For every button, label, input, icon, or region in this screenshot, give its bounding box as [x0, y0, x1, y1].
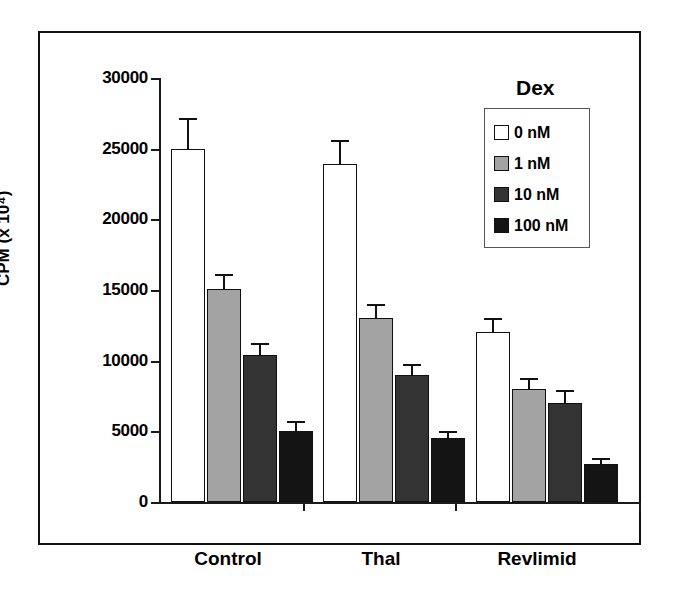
bar-control-100nM [279, 431, 313, 502]
error-cap-revlimid-100nM [592, 458, 610, 460]
y-tick-label-5000: 5000 [111, 421, 148, 441]
y-tick-label-0: 0 [139, 492, 148, 512]
error-cap-control-0nM [179, 118, 197, 120]
x-tick-group-sep-1 [303, 502, 305, 511]
error-bar-revlimid-100nM [600, 460, 602, 464]
x-category-label-revlimid: Revlimid [497, 548, 576, 570]
legend-swatch-100nM [494, 218, 509, 233]
y-tick-label-25000: 25000 [102, 139, 148, 159]
x-category-label-control: Control [194, 548, 262, 570]
bar-thal-100nM [431, 438, 465, 502]
legend-label-1nM: 1 nM [514, 155, 550, 173]
bar-thal-1nM [359, 318, 393, 502]
y-tick-0 [151, 502, 161, 504]
legend-item-1nM: 1 nM [494, 148, 589, 179]
legend-item-10nM: 10 nM [494, 179, 589, 210]
error-bar-thal-0nM [339, 142, 341, 165]
legend-swatch-10nM [494, 187, 509, 202]
legend-swatch-1nM [494, 156, 509, 171]
legend-swatch-0nM [494, 125, 509, 140]
bar-revlimid-10nM [548, 403, 582, 502]
legend-label-0nM: 0 nM [514, 124, 550, 142]
legend-label-10nM: 10 nM [514, 186, 559, 204]
legend-item-0nM: 0 nM [494, 117, 589, 148]
error-bar-thal-100nM [447, 433, 449, 439]
bar-control-10nM [243, 355, 277, 502]
legend-item-100nM: 100 nM [494, 210, 589, 241]
error-cap-thal-10nM [403, 364, 421, 366]
error-cap-control-10nM [251, 343, 269, 345]
error-bar-thal-10nM [411, 366, 413, 374]
error-bar-thal-1nM [375, 306, 377, 319]
error-cap-thal-0nM [331, 140, 349, 142]
error-cap-control-1nM [215, 274, 233, 276]
bar-control-0nM [171, 149, 205, 502]
bar-chart-figure: CPM (x 10⁴) 30000 25000 20000 15000 1000… [0, 0, 679, 592]
x-axis-line [159, 502, 641, 504]
error-cap-thal-1nM [367, 304, 385, 306]
error-bar-revlimid-0nM [492, 320, 494, 333]
legend-title: Dex [516, 76, 555, 100]
bar-thal-10nM [395, 375, 429, 502]
bar-revlimid-100nM [584, 464, 618, 502]
error-cap-revlimid-0nM [484, 318, 502, 320]
y-tick-label-20000: 20000 [102, 209, 148, 229]
bar-control-1nM [207, 289, 241, 502]
error-bar-revlimid-10nM [564, 392, 566, 403]
error-bar-control-1nM [223, 276, 225, 289]
y-axis-title: CPM (x 10⁴) [0, 191, 14, 286]
error-cap-revlimid-10nM [556, 390, 574, 392]
x-tick-group-sep-2 [455, 502, 457, 511]
y-tick-label-30000: 30000 [102, 68, 148, 88]
y-axis-tick-labels: 30000 25000 20000 15000 10000 5000 0 [40, 0, 148, 592]
error-bar-control-0nM [187, 120, 189, 148]
bar-revlimid-0nM [476, 332, 510, 502]
y-tick-label-15000: 15000 [102, 280, 148, 300]
error-cap-thal-100nM [439, 431, 457, 433]
legend-label-100nM: 100 nM [514, 217, 568, 235]
error-bar-control-100nM [295, 423, 297, 431]
x-tick-axis-end [639, 502, 641, 511]
bar-revlimid-1nM [512, 389, 546, 502]
legend-box: 0 nM1 nM10 nM100 nM [484, 108, 590, 248]
bar-thal-0nM [323, 164, 357, 502]
x-category-label-thal: Thal [361, 548, 400, 570]
error-cap-revlimid-1nM [520, 378, 538, 380]
y-tick-label-10000: 10000 [102, 351, 148, 371]
error-bar-revlimid-1nM [528, 380, 530, 388]
error-bar-control-10nM [259, 345, 261, 355]
error-cap-control-100nM [287, 421, 305, 423]
